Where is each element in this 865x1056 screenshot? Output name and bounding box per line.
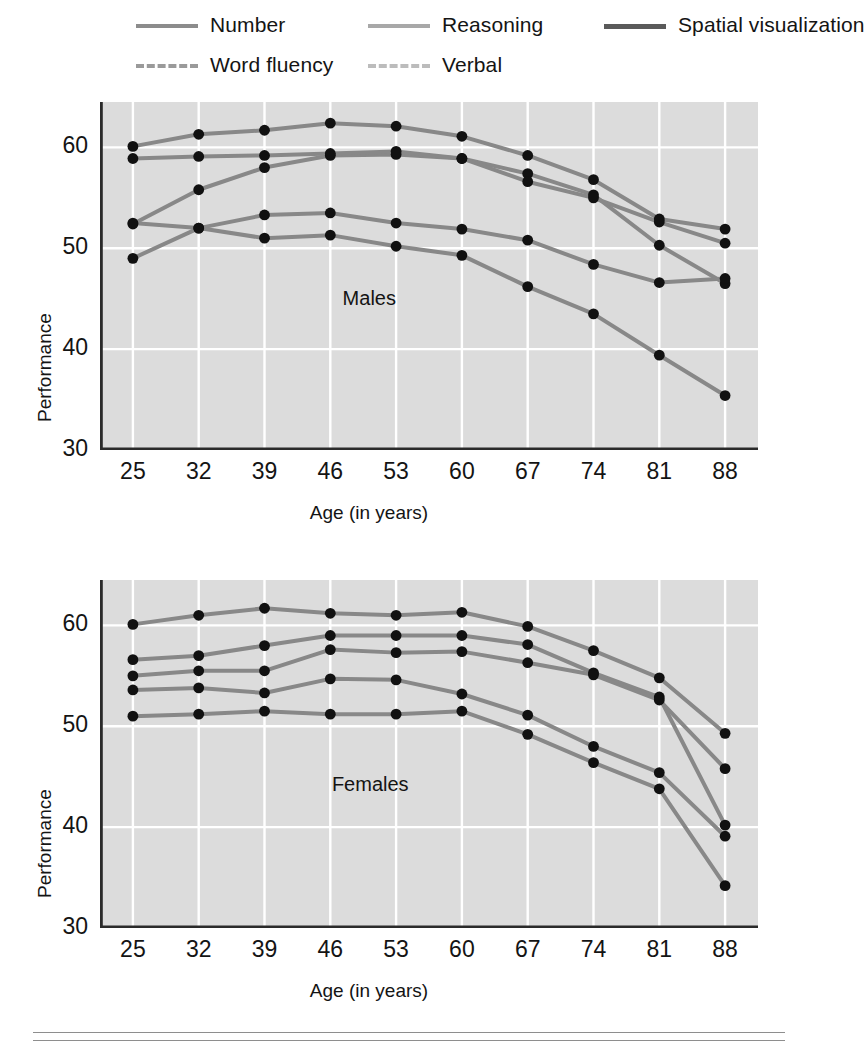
y-tick-label: 30 — [42, 435, 88, 462]
data-point-marker — [522, 657, 533, 668]
data-point-marker — [259, 603, 270, 614]
plot-area-females — [100, 580, 758, 928]
data-point-marker — [588, 308, 599, 319]
legend-swatch-spatial-visualization — [604, 24, 666, 29]
data-point-marker — [654, 695, 665, 706]
legend-label-spatial-visualization: Spatial visualization — [678, 13, 865, 37]
x-tick-label: 81 — [636, 936, 682, 963]
x-tick-label: 39 — [242, 458, 288, 485]
data-point-marker — [720, 820, 731, 831]
data-point-marker — [259, 665, 270, 676]
x-tick-label: 32 — [176, 936, 222, 963]
data-point-marker — [391, 218, 402, 229]
x-tick-label: 88 — [702, 936, 748, 963]
data-point-marker — [720, 238, 731, 249]
data-point-marker — [259, 640, 270, 651]
footer-rule-bottom — [33, 1040, 785, 1041]
plot-area-males — [100, 102, 758, 450]
data-point-marker — [193, 709, 204, 720]
data-point-marker — [522, 235, 533, 246]
y-tick-label: 60 — [42, 132, 88, 159]
data-point-marker — [457, 706, 468, 717]
x-tick-label: 67 — [505, 458, 551, 485]
data-point-marker — [325, 208, 336, 219]
data-point-marker — [720, 763, 731, 774]
data-point-marker — [128, 654, 139, 665]
chart-svg — [100, 580, 758, 928]
data-point-marker — [193, 184, 204, 195]
x-tick-label: 88 — [702, 458, 748, 485]
legend-item-word-fluency: Word fluency — [136, 50, 333, 80]
series-line-word-fluency — [133, 679, 725, 836]
x-tick-label: 46 — [307, 458, 353, 485]
x-tick-label: 53 — [373, 936, 419, 963]
legend-swatch-verbal — [368, 64, 430, 68]
data-point-marker — [457, 224, 468, 235]
data-point-marker — [193, 223, 204, 234]
data-point-marker — [522, 639, 533, 650]
data-point-marker — [325, 148, 336, 159]
series-line-number — [133, 228, 725, 395]
x-tick-label: 67 — [505, 936, 551, 963]
data-point-marker — [457, 646, 468, 657]
legend-item-verbal: Verbal — [368, 50, 502, 80]
data-point-marker — [654, 214, 665, 225]
data-point-marker — [128, 253, 139, 264]
y-tick-label: 40 — [42, 812, 88, 839]
data-point-marker — [457, 630, 468, 641]
data-point-marker — [325, 709, 336, 720]
data-point-marker — [193, 129, 204, 140]
data-point-marker — [325, 118, 336, 129]
data-point-marker — [522, 621, 533, 632]
data-point-marker — [128, 153, 139, 164]
data-point-marker — [654, 350, 665, 361]
legend-label-verbal: Verbal — [442, 53, 502, 77]
y-axis-label-females: Performance — [34, 789, 56, 898]
data-point-marker — [654, 783, 665, 794]
data-point-marker — [588, 259, 599, 270]
data-point-marker — [457, 689, 468, 700]
panel-females: Performance Females Age (in years) 30405… — [0, 570, 818, 1010]
data-point-marker — [391, 630, 402, 641]
series-line-verbal — [133, 154, 725, 283]
legend-item-reasoning: Reasoning — [368, 10, 543, 40]
legend-swatch-number — [136, 24, 198, 28]
x-tick-label: 74 — [571, 458, 617, 485]
legend-row-2: Word fluency Verbal — [0, 50, 818, 88]
data-point-marker — [325, 230, 336, 241]
y-tick-label: 50 — [42, 711, 88, 738]
data-point-marker — [522, 710, 533, 721]
data-point-marker — [522, 729, 533, 740]
legend-item-spatial-visualization: Spatial visualization — [604, 10, 865, 40]
data-point-marker — [128, 711, 139, 722]
x-tick-label: 81 — [636, 458, 682, 485]
data-point-marker — [588, 741, 599, 752]
y-tick-label: 50 — [42, 233, 88, 260]
x-tick-label: 39 — [242, 936, 288, 963]
data-point-marker — [259, 233, 270, 244]
y-tick-label: 60 — [42, 610, 88, 637]
data-point-marker — [654, 277, 665, 288]
chart-legend: Number Reasoning Spatial visualization W… — [0, 6, 818, 90]
x-tick-label: 60 — [439, 458, 485, 485]
legend-label-number: Number — [210, 13, 285, 37]
data-point-marker — [193, 650, 204, 661]
data-point-marker — [128, 619, 139, 630]
data-point-marker — [391, 709, 402, 720]
data-point-marker — [325, 644, 336, 655]
data-point-marker — [391, 647, 402, 658]
data-point-marker — [259, 688, 270, 699]
data-point-marker — [193, 683, 204, 694]
data-point-marker — [457, 607, 468, 618]
data-point-marker — [720, 273, 731, 284]
x-tick-label: 25 — [110, 936, 156, 963]
data-point-marker — [720, 728, 731, 739]
data-point-marker — [720, 224, 731, 235]
data-point-marker — [259, 125, 270, 136]
data-point-marker — [588, 757, 599, 768]
data-point-marker — [588, 645, 599, 656]
legend-row-1: Number Reasoning Spatial visualization — [0, 10, 818, 48]
legend-label-word-fluency: Word fluency — [210, 53, 333, 77]
data-point-marker — [391, 146, 402, 157]
